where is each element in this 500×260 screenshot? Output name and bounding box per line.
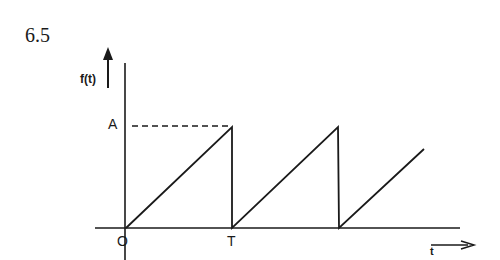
- t-arrow-icon: [431, 241, 474, 249]
- sawtooth-diagram: [0, 0, 500, 260]
- sawtooth-waveform: [126, 127, 424, 228]
- y-arrow-icon: [103, 47, 113, 88]
